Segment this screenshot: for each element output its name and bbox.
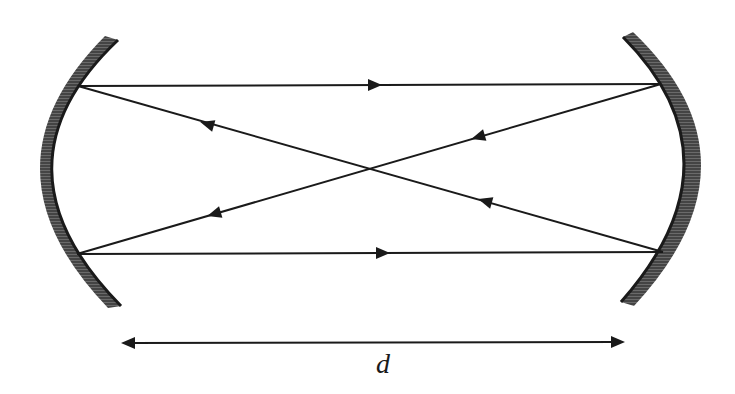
arrow-left-up-icon: [199, 116, 216, 131]
arrow-left-down-icon: [470, 129, 487, 144]
dimension-arrow: [121, 336, 625, 349]
bottom-ray: [77, 252, 663, 254]
ray-arrows: [199, 79, 494, 259]
distance-label: d: [376, 350, 390, 378]
arrow-left-icon: [121, 337, 135, 349]
diagonal-up-ray: [77, 84, 661, 254]
resonator-diagram: d: [0, 0, 735, 394]
arrow-right-icon: [611, 336, 625, 348]
arrow-left-down-icon: [206, 206, 223, 221]
diagram-svg: [0, 0, 735, 394]
left-mirror: [40, 36, 121, 308]
arrow-left-up-icon: [477, 193, 494, 208]
light-rays: [77, 84, 663, 254]
arrow-right-icon: [376, 247, 390, 259]
arrow-right-icon: [368, 79, 382, 91]
right-mirror: [621, 32, 701, 306]
